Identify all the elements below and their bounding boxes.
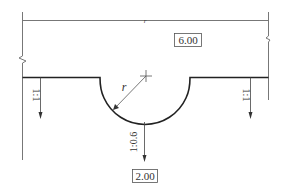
slope-right-label: 1:1 — [241, 89, 252, 102]
slope-right: 1:1 — [241, 78, 253, 120]
elevation-bottom-label: 2.00 — [135, 170, 155, 182]
cross-section-diagram: r 6.00 r 1:1 1:1 1:0.6 2.00 — [0, 0, 281, 192]
slope-center: 1:0.6 — [128, 122, 147, 162]
top-dimension-label: r — [144, 17, 147, 25]
radius-label: r — [122, 80, 127, 94]
elevation-bottom: 2.00 — [133, 170, 158, 183]
slope-left: 1:1 — [31, 78, 43, 120]
ground-profile — [23, 78, 269, 125]
break-mark-icon — [266, 36, 270, 42]
elevation-top-label: 6.00 — [178, 34, 198, 46]
elevation-top: 6.00 — [175, 34, 202, 47]
top-dimension: r — [23, 17, 269, 25]
radius-dimension: r — [113, 76, 146, 110]
slope-left-label: 1:1 — [31, 89, 42, 102]
slope-center-label: 1:0.6 — [128, 132, 139, 152]
break-mark-icon — [19, 56, 26, 63]
